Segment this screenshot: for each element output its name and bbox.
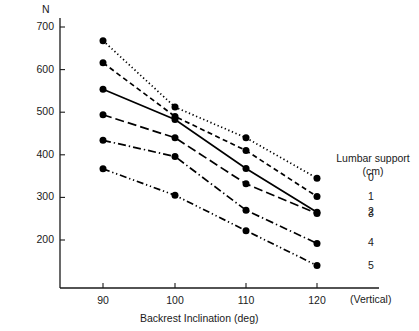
series-line-1 xyxy=(103,63,317,197)
data-point xyxy=(100,86,107,93)
x-axis-vertical-note: (Vertical) xyxy=(350,293,391,305)
data-point xyxy=(243,180,250,187)
data-point xyxy=(172,153,179,160)
legend-entry-1: 1 xyxy=(351,190,391,202)
data-point xyxy=(100,165,107,172)
data-point xyxy=(243,134,250,141)
data-point xyxy=(100,111,107,118)
data-point xyxy=(100,37,107,44)
data-point xyxy=(314,210,321,217)
data-point xyxy=(314,193,321,200)
legend-entry-4: 4 xyxy=(351,236,391,248)
y-tick-label: 500 xyxy=(20,105,54,117)
x-axis-title: Backrest Inclination (deg) xyxy=(140,312,258,324)
data-point xyxy=(100,59,107,66)
x-tick-label: 110 xyxy=(226,294,266,306)
data-point xyxy=(172,104,179,111)
data-point xyxy=(172,134,179,141)
x-tick-label: 120 xyxy=(297,294,337,306)
legend-entry-0: 0 xyxy=(351,171,391,183)
data-point xyxy=(172,192,179,199)
data-point xyxy=(314,175,321,182)
data-point xyxy=(172,116,179,123)
data-point xyxy=(243,147,250,154)
data-point xyxy=(314,262,321,269)
y-tick-label: 300 xyxy=(20,190,54,202)
series-line-2 xyxy=(103,89,317,212)
y-tick-label: 200 xyxy=(20,233,54,245)
legend-entry-5: 5 xyxy=(351,259,391,271)
x-tick-label: 90 xyxy=(83,294,123,306)
data-point xyxy=(100,137,107,144)
data-point xyxy=(243,165,250,172)
y-tick-label: 600 xyxy=(20,63,54,75)
legend-entry-3: 3 xyxy=(351,207,391,219)
data-point xyxy=(314,240,321,247)
series-line-0 xyxy=(103,41,317,179)
legend-title: Lumbar support xyxy=(330,152,416,165)
y-tick-label: 400 xyxy=(20,148,54,160)
y-tick-label: 700 xyxy=(20,20,54,32)
x-tick-label: 100 xyxy=(155,294,195,306)
series-line-5 xyxy=(103,169,317,266)
data-point xyxy=(243,207,250,214)
series-line-3 xyxy=(103,115,317,214)
chart-figure: N 700600500400300200 90100110120 Backres… xyxy=(0,0,419,331)
data-point xyxy=(243,227,250,234)
